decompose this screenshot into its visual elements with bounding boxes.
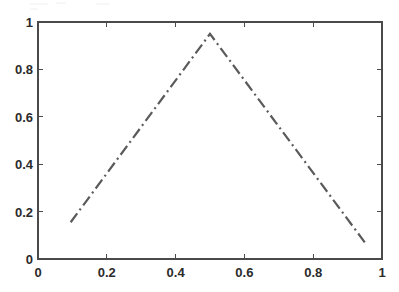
figure-canvas: 00.20.40.60.8100.20.40.60.81 (0, 0, 399, 292)
y-axis-tick-label: 0.8 (15, 63, 33, 76)
x-axis-tick-label: 0.6 (235, 266, 253, 279)
y-axis-tick-label: 0.6 (15, 110, 33, 123)
x-axis-tick-label: 0.8 (304, 266, 322, 279)
y-axis-tick-label: 1 (26, 16, 33, 29)
x-axis-tick-label: 0.4 (167, 266, 185, 279)
x-axis-tick-label: 0 (34, 266, 41, 279)
x-axis-tick-label: 0.2 (98, 266, 116, 279)
y-axis-tick-label: 0 (26, 253, 33, 266)
x-axis-tick-label: 1 (378, 266, 385, 279)
chart-plot (0, 0, 399, 292)
plot-background (38, 22, 382, 259)
y-axis-tick-label: 0.4 (15, 158, 33, 171)
y-axis-tick-label: 0.2 (15, 205, 33, 218)
